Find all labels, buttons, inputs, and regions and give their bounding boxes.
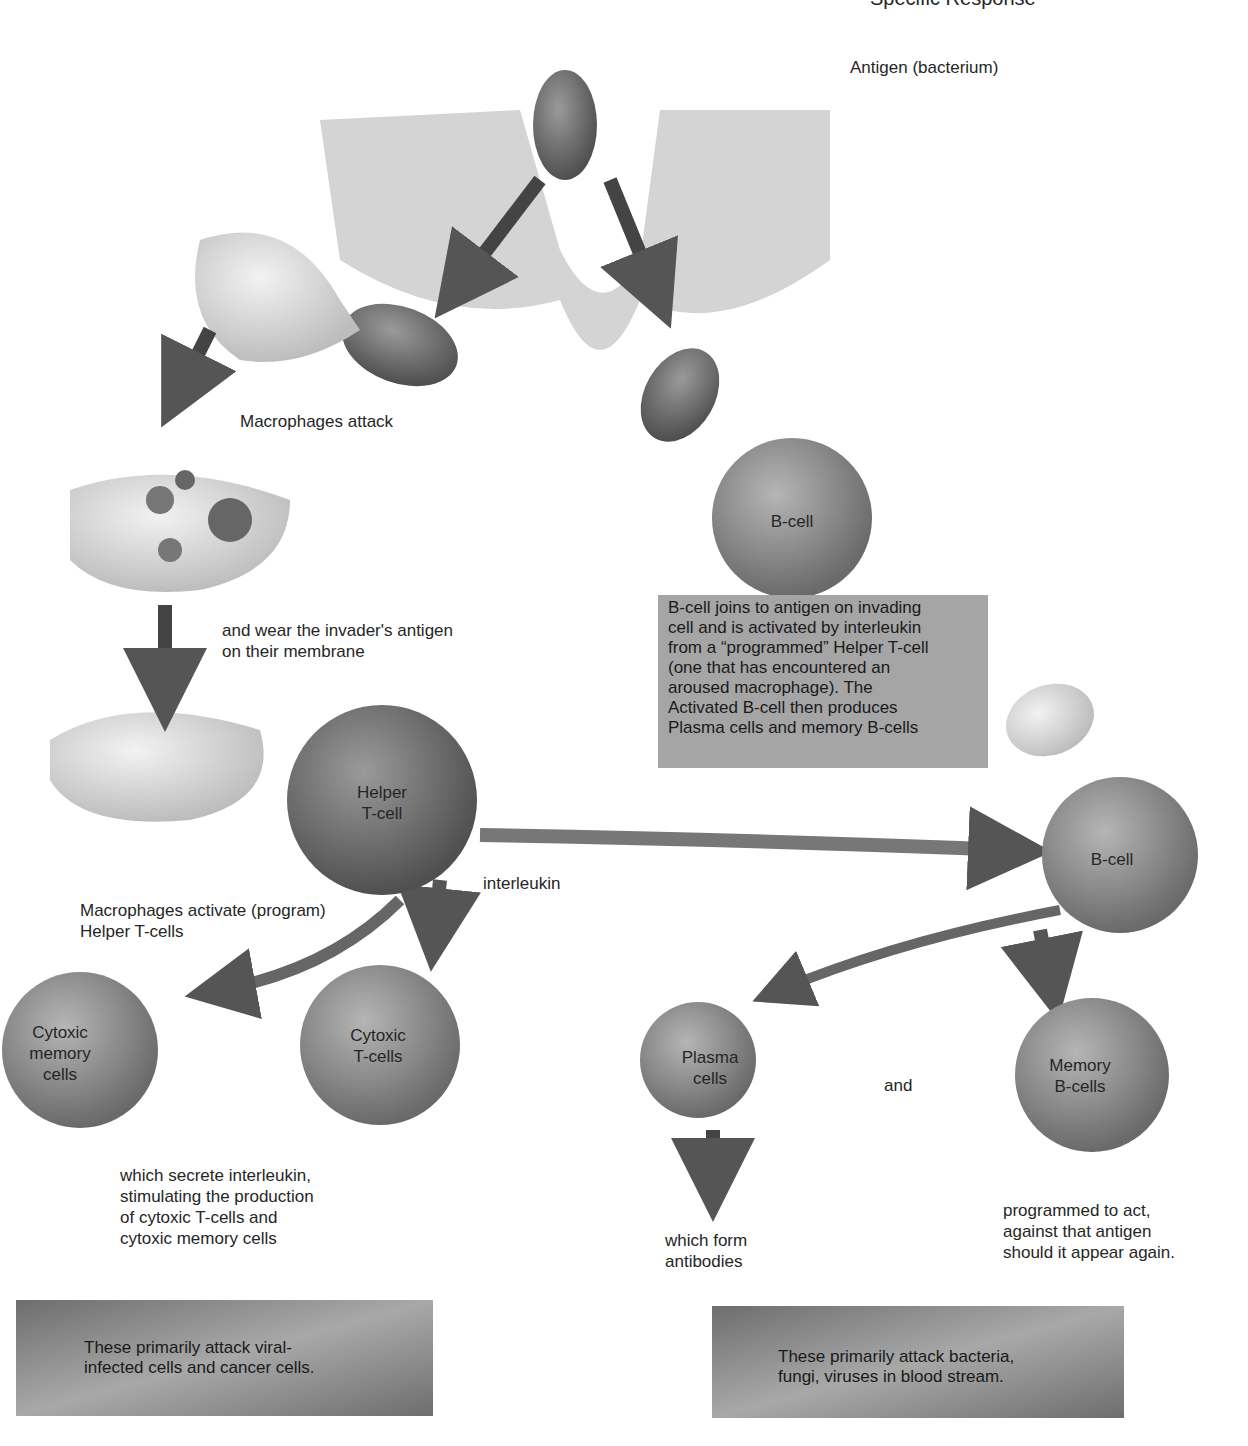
cytoxic-t-cells-label: CytoxicT-cells: [328, 1025, 428, 1067]
and-label: and: [884, 1075, 912, 1096]
secrete-label: which secrete interleukin,stimulating th…: [120, 1165, 314, 1249]
plasma-cells-label: Plasmacells: [660, 1047, 760, 1089]
t-cell-summary-box: These primarily attack viral-infected ce…: [84, 1338, 315, 1378]
b-cell-info-text: B-cell joins to antigen on invadingcell …: [668, 598, 928, 738]
antigen-label: Antigen (bacterium): [850, 57, 998, 78]
macrophages-attack-label: Macrophages attack: [240, 411, 393, 432]
b-cell-right-label: B-cell: [1062, 849, 1162, 870]
memory-b-cells-label: MemoryB-cells: [1030, 1055, 1130, 1097]
b-cell-top-label: B-cell: [742, 511, 842, 532]
macrophages-activate-label: Macrophages activate (program)Helper T-c…: [80, 900, 326, 942]
programmed-label: programmed to act,against that antigensh…: [1003, 1200, 1175, 1263]
helper-t-cell-label: HelperT-cell: [332, 782, 432, 824]
cytoxic-memory-label: Cytoxicmemorycells: [20, 1022, 100, 1085]
form-antibodies-label: which formantibodies: [665, 1230, 747, 1272]
interleukin-label: interleukin: [483, 873, 561, 894]
title-fragment: Specific Response: [870, 0, 1036, 9]
wear-antigen-label: and wear the invader's antigenon their m…: [222, 620, 453, 662]
b-cell-summary-box: These primarily attack bacteria,fungi, v…: [778, 1347, 1014, 1387]
